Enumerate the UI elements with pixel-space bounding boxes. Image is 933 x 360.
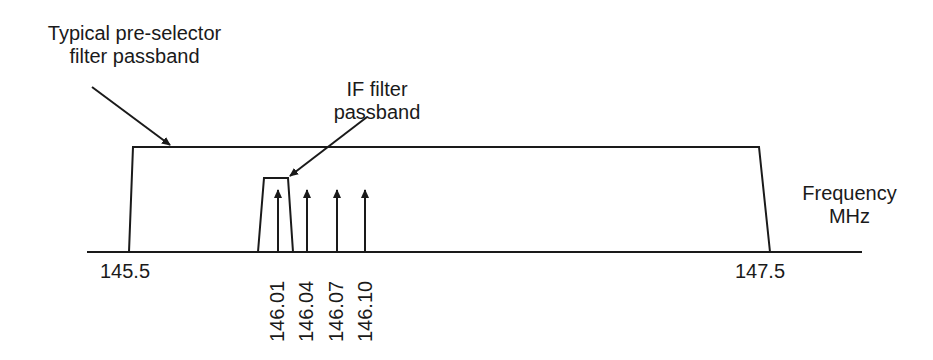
tick-147-5: 147.5 [735,260,785,282]
signal-label-146.07: 146.07 [325,281,347,342]
if-filter-label: IF filter passband [322,78,432,124]
axis-label: Frequency MHz [782,182,917,228]
if-passband [258,178,293,252]
signal-label-146.10: 146.10 [354,281,376,342]
frequency-diagram: Typical pre-selector filter passband IF … [0,0,933,360]
tick-145-5: 145.5 [100,260,150,282]
signal-label-146.04: 146.04 [295,281,317,342]
preselector-callout-arrow [92,87,170,145]
preselector-label: Typical pre-selector filter passband [22,22,247,68]
preselector-passband [129,147,770,252]
signal-label-146.01: 146.01 [266,281,288,342]
